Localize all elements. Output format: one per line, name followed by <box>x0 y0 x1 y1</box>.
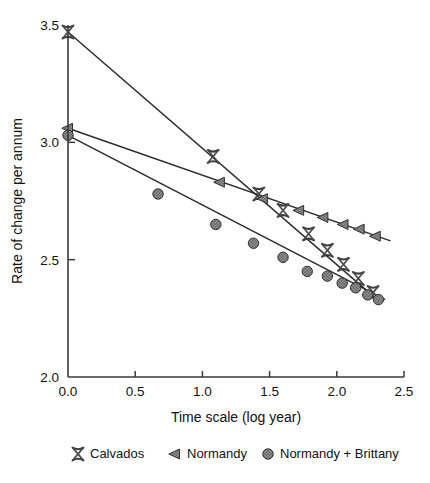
x-axis-ticks <box>135 371 404 377</box>
legend-label-2: Normandy + Brittany <box>280 446 399 461</box>
data-point <box>302 266 312 276</box>
left-triangle-marker <box>370 231 381 241</box>
axes <box>68 25 404 377</box>
legend-label-0: Calvados <box>90 446 145 461</box>
circle-marker <box>363 290 373 300</box>
circle-marker <box>211 219 221 229</box>
series-fit-line-2 <box>68 135 385 299</box>
legend-label-1: Normandy <box>187 446 247 461</box>
series-0-points <box>63 26 379 299</box>
circle-marker <box>350 283 360 293</box>
data-point <box>278 252 288 262</box>
circle-marker <box>302 266 312 276</box>
y-axis-title: Rate of change per annum <box>9 118 25 284</box>
y-tick-label: 3.5 <box>40 18 59 33</box>
x-axis-title: Time scale (log year) <box>171 409 301 425</box>
circle-marker <box>373 294 383 304</box>
data-point <box>278 204 289 217</box>
data-point <box>322 271 332 281</box>
data-point <box>337 220 348 230</box>
x-tick-label: 1.0 <box>193 384 212 399</box>
circle-marker <box>278 252 288 262</box>
chart-legend: CalvadosNormandyNormandy + Brittany <box>73 446 400 461</box>
circle-marker <box>322 271 332 281</box>
x-axis-tick-labels: 0.00.51.01.52.02.5 <box>59 384 414 399</box>
data-point <box>303 227 314 240</box>
data-point <box>211 219 221 229</box>
data-point <box>317 212 328 222</box>
data-point <box>248 238 258 248</box>
y-axis-ticks <box>68 142 75 259</box>
circle-marker <box>337 278 347 288</box>
scatter-plot: 0.00.51.01.52.02.5 2.02.53.03.5 Time sca… <box>0 0 430 483</box>
regression-lines <box>68 32 391 302</box>
data-point <box>353 224 364 234</box>
x-tick-label: 2.5 <box>395 384 414 399</box>
left-triangle-marker <box>317 212 328 222</box>
data-point <box>208 150 219 163</box>
y-tick-label: 2.0 <box>40 370 59 385</box>
data-point <box>214 177 225 187</box>
data-point <box>373 294 383 304</box>
left-triangle-marker <box>214 177 225 187</box>
data-point <box>337 278 347 288</box>
left-triangle-marker <box>169 449 180 459</box>
x-tick-label: 0.0 <box>59 384 78 399</box>
legend-marker-2 <box>263 449 273 459</box>
series-fit-line-0 <box>68 32 380 302</box>
series-2-points <box>63 130 384 305</box>
x-tick-label: 1.5 <box>260 384 279 399</box>
y-tick-label: 2.5 <box>40 253 59 268</box>
chart-figure: 0.00.51.01.52.02.5 2.02.53.03.5 Time sca… <box>0 0 430 483</box>
left-triangle-marker <box>353 224 364 234</box>
data-point <box>338 258 349 271</box>
circle-marker <box>263 449 273 459</box>
y-tick-label: 3.0 <box>40 135 59 150</box>
y-axis-tick-labels: 2.02.53.03.5 <box>40 18 59 385</box>
x-tick-label: 2.0 <box>327 384 346 399</box>
legend-marker-0 <box>73 448 84 461</box>
circle-marker <box>153 189 163 199</box>
data-point <box>322 244 333 257</box>
left-triangle-marker <box>337 220 348 230</box>
data-point <box>363 290 373 300</box>
data-point <box>370 231 381 241</box>
data-point <box>153 189 163 199</box>
legend-marker-1 <box>169 449 180 459</box>
x-tick-label: 0.5 <box>126 384 145 399</box>
data-point <box>350 283 360 293</box>
circle-marker <box>248 238 258 248</box>
